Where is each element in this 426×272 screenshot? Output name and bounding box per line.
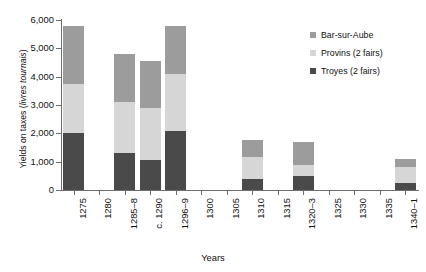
x-axis-tick-label: 1320–3 [307,198,316,229]
bar-segment [395,183,416,190]
bar-segment [140,61,161,108]
bar-stack [114,54,135,190]
x-axis-tick-label: 1340–1 [409,198,418,229]
x-axis-tick-label: c. 1290 [154,198,163,229]
bar-segment [140,108,161,160]
bar-segment [114,54,135,102]
chart-legend: Bar-sur-AubeProvins (2 fairs)Troyes (2 f… [310,26,383,80]
bar-segment [242,140,263,157]
x-axis-tick [329,190,330,195]
x-axis-tick-label: 1305 [231,198,240,219]
x-axis-tick-label: 1325 [333,198,342,219]
bar-segment [63,26,84,84]
x-axis-tick [201,190,202,195]
y-axis-tick-label: 1,000 [6,157,54,166]
bar-segment [114,153,135,190]
bar-segment [293,142,314,165]
x-axis-title: Years [0,252,426,263]
x-axis-line [61,190,419,191]
bar-stack [395,159,416,190]
x-axis-tick [303,190,304,195]
y-axis-tick-label: 6,000 [6,15,54,24]
x-axis-tick-label: 1330 [358,198,367,219]
bar-segment [63,133,84,190]
y-axis-tick-label: 3,000 [6,100,54,109]
x-axis-tick [227,190,228,195]
legend-swatch-icon [310,50,316,56]
bar-chart: Yields on taxes (livres tournais) 01,000… [0,0,426,272]
bar-segment [242,179,263,190]
legend-label: Troyes (2 fairs) [321,67,380,76]
x-axis-tick [74,190,75,195]
bar-stack [140,61,161,190]
bar-segment [293,176,314,190]
y-axis-tick-label: 0 [6,185,54,194]
bar-segment [63,84,84,134]
y-axis-tick-label: 2,000 [6,128,54,137]
bar-segment [395,159,416,168]
bar-segment [395,167,416,183]
x-axis-tick [125,190,126,195]
x-axis-tick [150,190,151,195]
x-axis-tick-label: 1296–9 [180,198,189,229]
x-axis-tick-label: 1275 [78,198,87,219]
legend-swatch-icon [310,68,316,74]
x-axis-tick-label: 1285–8 [129,198,138,229]
bar-stack [242,140,263,190]
bar-segment [242,157,263,178]
bar-stack [63,26,84,190]
bar-stack [293,142,314,190]
y-axis-tick [56,190,61,191]
x-axis-tick [252,190,253,195]
x-axis-tick-label: 1280 [103,198,112,219]
x-axis-tick-label: 1310 [256,198,265,219]
bar-segment [114,102,135,153]
bar-segment [293,165,314,176]
legend-label: Bar-sur-Aube [321,31,373,40]
legend-label: Provins (2 fairs) [321,49,383,58]
x-axis-tick [380,190,381,195]
legend-swatch-icon [310,32,316,38]
x-axis-tick [176,190,177,195]
x-axis-tick [405,190,406,195]
bar-segment [140,160,161,190]
legend-item[interactable]: Bar-sur-Aube [310,26,383,44]
y-axis-tick-label: 4,000 [6,72,54,81]
bar-segment [165,26,186,74]
bar-segment [165,74,186,131]
y-axis-tick-label: 5,000 [6,43,54,52]
x-axis-tick [99,190,100,195]
x-axis-tick-label: 1335 [384,198,393,219]
bar-segment [165,131,186,191]
bar-stack [165,26,186,190]
x-axis-tick [278,190,279,195]
x-axis-tick-label: 1315 [282,198,291,219]
legend-item[interactable]: Troyes (2 fairs) [310,62,383,80]
legend-item[interactable]: Provins (2 fairs) [310,44,383,62]
x-axis-tick [354,190,355,195]
x-axis-tick-label: 1300 [205,198,214,219]
